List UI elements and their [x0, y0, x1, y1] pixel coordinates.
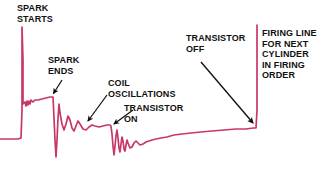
label-spark-starts: SPARK STARTS	[17, 3, 53, 24]
label-firing-line: FIRING LINE FOR NEXT CYLINDER IN FIRING …	[262, 28, 317, 81]
label-spark-ends: SPARK ENDS	[48, 55, 79, 76]
oscilloscope-figure: SPARK STARTS SPARK ENDS COIL OSCILLATION…	[0, 0, 324, 174]
arrow-coil-oscillations	[88, 95, 107, 121]
label-transistor-off: TRANSISTOR OFF	[186, 33, 245, 54]
arrow-transistor-off	[201, 62, 253, 123]
label-coil-oscillations: COIL OSCILLATIONS	[108, 78, 176, 99]
label-transistor-on: TRANSISTOR ON	[124, 103, 183, 124]
arrow-spark-ends	[54, 80, 63, 94]
